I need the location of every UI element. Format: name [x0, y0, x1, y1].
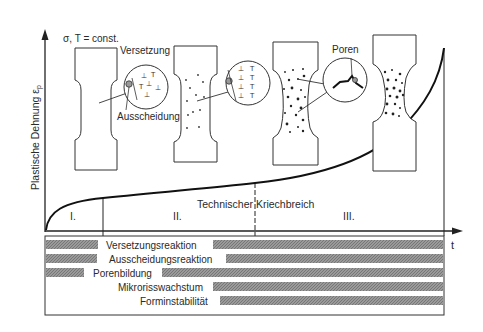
bar-poren-right [162, 268, 443, 277]
mechanism-box: Versetzungsreaktion Ausscheidungsreaktio… [45, 236, 444, 315]
y-axis-label-sub: p [35, 85, 43, 89]
y-axis-label: Plastische Dehnung εp [29, 85, 43, 190]
svg-text:⊥: ⊥ [238, 65, 244, 73]
svg-text:⊥: ⊥ [238, 92, 244, 100]
x-axis-arrow-icon [452, 228, 463, 235]
y-axis-label-main: Plastische Dehnung ε [29, 89, 41, 190]
svg-text:⊥: ⊥ [238, 74, 244, 82]
svg-text:T: T [249, 74, 255, 82]
stage-label-3: III. [343, 210, 355, 222]
svg-text:T: T [249, 65, 255, 73]
bar-versetzung-left [46, 240, 98, 249]
ausscheidung-label: Ausscheidung [117, 111, 180, 122]
zoom-circle-2 [226, 61, 270, 105]
svg-text:⊥: ⊥ [238, 83, 244, 91]
y-axis-arrow-icon [42, 29, 49, 40]
svg-text:⊥: ⊥ [155, 84, 161, 92]
condition-label: σ, T = const. [63, 33, 119, 44]
specimen-3: Poren [273, 42, 367, 165]
mechanism-label-2: Ausscheidungsreaktion [109, 254, 212, 265]
bar-forminstabilitaet [220, 296, 443, 305]
specimen-1-outline [75, 48, 117, 170]
specimen-2: ⊥T ⊥T ⊥T ⊥T [174, 46, 270, 162]
svg-text:T: T [249, 92, 255, 100]
region-label: Technischer Kriechbreich [197, 198, 314, 210]
poren-label: Poren [332, 44, 359, 55]
versetzung-label: Versetzung [120, 45, 170, 56]
stage-label-1: I. [70, 210, 76, 222]
svg-text:⊥: ⊥ [144, 91, 150, 99]
svg-text:⊥: ⊥ [141, 72, 147, 80]
bar-mikroriss [213, 282, 443, 291]
bar-ausscheidung-left [46, 254, 97, 263]
svg-text:T: T [138, 83, 144, 91]
zoom-circle-3 [323, 58, 367, 102]
specimen-2-outline [174, 46, 217, 162]
mechanism-label-5: Forminstabilität [140, 296, 208, 307]
bar-ausscheidung-right [226, 254, 443, 263]
specimen-3-outline [273, 42, 318, 165]
mechanism-label-1: Versetzungsreaktion [106, 240, 197, 251]
stage-label-2: II. [173, 210, 182, 222]
specimen-4 [373, 35, 416, 171]
creep-diagram: t Plastische Dehnung εp I. II. III. Tech… [0, 0, 483, 332]
specimen-1: ⊥T T⊥⊥ ⊥ Versetzung Ausscheidung [75, 45, 180, 170]
svg-text:T: T [150, 71, 156, 79]
svg-text:⊥: ⊥ [146, 80, 152, 88]
bar-poren-left [46, 268, 84, 277]
mechanism-label-4: Mikrorisswachstum [118, 282, 203, 293]
x-axis-label: t [451, 239, 454, 251]
svg-text:T: T [249, 83, 255, 91]
pore-precipitate-icon [353, 78, 358, 83]
mechanism-label-3: Porenbildung [93, 268, 152, 279]
precipitate-icon [126, 81, 132, 87]
bar-versetzung-right [213, 240, 443, 249]
